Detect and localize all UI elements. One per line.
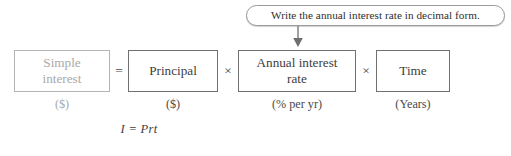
formula-expression: I = Prt: [74, 122, 204, 137]
term-box-principal: Principal: [128, 50, 218, 92]
term-box-time: Time: [376, 50, 450, 92]
term-label-principal: Principal: [149, 63, 197, 79]
term-box-annual-interest-rate: Annual interest rate: [238, 50, 356, 92]
operator-multiply-first: ×: [218, 50, 238, 92]
term-box-simple-interest: Simple interest: [14, 50, 110, 92]
callout-text: Write the annual interest rate in decima…: [271, 10, 480, 21]
term-label-simple-interest: Simple interest: [43, 55, 82, 86]
operator-equals: =: [110, 50, 128, 92]
term-label-annual-interest-rate: Annual interest rate: [257, 55, 338, 86]
term-unit-simple-interest: ($): [14, 96, 110, 112]
operator-multiply-second: ×: [356, 50, 376, 92]
term-unit-time: (Years): [376, 96, 450, 112]
callout-bubble: Write the annual interest rate in decima…: [246, 5, 505, 26]
term-unit-principal: ($): [128, 96, 218, 112]
simple-interest-formula-diagram: Write the annual interest rate in decima…: [0, 0, 511, 156]
term-unit-annual-interest-rate: (% per yr): [238, 96, 356, 112]
term-label-time: Time: [399, 63, 426, 79]
down-arrow-icon: [290, 26, 306, 48]
